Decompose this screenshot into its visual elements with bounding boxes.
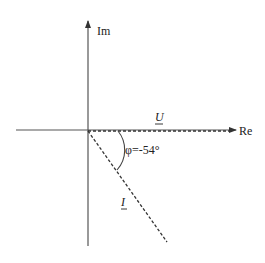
voltage-phasor-label: U [155, 110, 165, 124]
angle-arc [117, 131, 125, 170]
phasor-diagram: Im Re U I φ=-54° [0, 0, 265, 263]
real-axis-label: Re [239, 124, 252, 138]
imaginary-axis-label: Im [97, 24, 111, 38]
current-phasor-label: I [120, 195, 126, 209]
angle-label: φ=-54° [125, 143, 160, 157]
